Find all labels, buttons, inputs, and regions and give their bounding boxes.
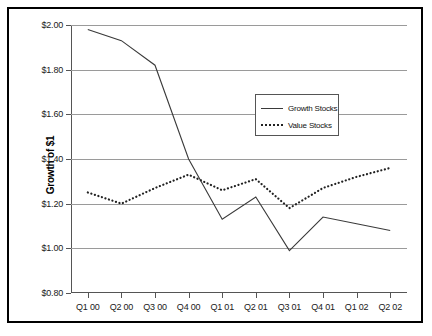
y-tick-label: $2.00 [41, 20, 63, 30]
series-line-value-stocks [88, 168, 390, 208]
series-line-growth-stocks [88, 29, 390, 250]
legend-item-value-stocks: Value Stocks [261, 118, 334, 132]
y-tick-label: $1.80 [41, 65, 63, 75]
x-tick [189, 293, 190, 298]
x-tick [323, 293, 324, 298]
y-axis-title: Growth of $1 [45, 136, 56, 195]
x-tick-label: Q3 01 [278, 302, 302, 312]
y-tick-label: $1.40 [41, 154, 63, 164]
x-tick [390, 293, 391, 298]
x-tick-label: Q1 02 [345, 302, 369, 312]
legend-swatch-dotted-icon [261, 124, 283, 126]
y-tick-label: $1.60 [41, 109, 63, 119]
x-tick-label: Q2 02 [378, 302, 402, 312]
x-tick [155, 293, 156, 298]
x-tick-label: Q4 00 [177, 302, 201, 312]
x-tick-label: Q3 00 [143, 302, 167, 312]
legend-label-growth-stocks: Growth Stocks [288, 104, 337, 113]
series-lines [71, 25, 407, 293]
chart-frame: Growth of $1 $2.00$1.80$1.60$1.40$1.20$1… [7, 7, 423, 323]
x-tick-label: Q1 01 [210, 302, 234, 312]
legend-item-growth-stocks: Growth Stocks [261, 101, 334, 115]
chart-legend: Growth Stocks Value Stocks [255, 94, 339, 136]
x-tick [256, 293, 257, 298]
x-tick-label: Q4 01 [311, 302, 335, 312]
y-tick-label: $0.80 [41, 288, 63, 298]
x-tick-label: Q2 00 [110, 302, 134, 312]
x-tick [289, 293, 290, 298]
legend-label-value-stocks: Value Stocks [288, 121, 332, 130]
legend-swatch-solid-icon [261, 108, 283, 109]
x-tick-label: Q1 00 [76, 302, 100, 312]
y-tick-label: $1.20 [41, 199, 63, 209]
x-tick [121, 293, 122, 298]
x-tick [357, 293, 358, 298]
x-tick [222, 293, 223, 298]
y-tick-label: $1.00 [41, 243, 63, 253]
y-tick [66, 293, 71, 294]
x-tick-label: Q2 01 [244, 302, 268, 312]
x-tick [88, 293, 89, 298]
plot-area: $2.00$1.80$1.60$1.40$1.20$1.00$0.80 Q1 0… [71, 25, 407, 293]
